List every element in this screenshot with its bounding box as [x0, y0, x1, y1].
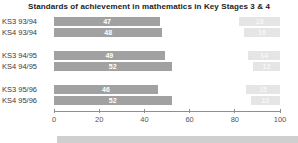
x-axis-tick-mark	[54, 109, 55, 113]
main-bar-value: 52	[54, 96, 172, 105]
category-label: KS3 94/95	[2, 51, 52, 60]
secondary-bar: 13	[251, 96, 280, 105]
main-bar: 49	[54, 51, 165, 60]
category-label: KS4 93/94	[2, 28, 52, 37]
secondary-bar-value: 13	[251, 96, 280, 105]
category-label: KS3 95/96	[2, 85, 52, 94]
main-bar-value: 47	[54, 17, 160, 26]
x-axis-tick-mark	[234, 109, 235, 113]
secondary-bar-value: 18	[239, 17, 280, 26]
x-axis-tick-label: 0	[44, 115, 64, 124]
category-label: KS3 93/94	[2, 17, 52, 26]
category-label: KS4 94/95	[2, 62, 52, 71]
x-axis-tick-label: 80	[225, 115, 245, 124]
main-bar-value: 49	[54, 51, 165, 60]
secondary-bar: 15	[246, 85, 280, 94]
secondary-bar: 14	[248, 51, 280, 60]
x-axis-tick-mark	[189, 109, 190, 113]
x-axis-tick-mark	[144, 109, 145, 113]
main-bar: 47	[54, 17, 160, 26]
x-axis-tick-label: 20	[89, 115, 109, 124]
main-bar: 48	[54, 28, 162, 37]
main-bar: 46	[54, 85, 158, 94]
x-axis-tick-label: 40	[134, 115, 154, 124]
main-bar-value: 52	[54, 62, 172, 71]
chart-area: Standards of achievement in mathematics …	[0, 0, 298, 143]
x-axis-tick-mark	[280, 109, 281, 113]
main-bar-value: 48	[54, 28, 162, 37]
chart-title: Standards of achievement in mathematics …	[0, 2, 298, 11]
category-label: KS4 95/96	[2, 96, 52, 105]
secondary-bar-value: 14	[248, 51, 280, 60]
secondary-bar: 16	[244, 28, 280, 37]
secondary-bar-value: 16	[244, 28, 280, 37]
secondary-bar-value: 15	[246, 85, 280, 94]
secondary-bar: 18	[239, 17, 280, 26]
main-bar: 52	[54, 96, 172, 105]
x-axis-tick-label: 100	[270, 115, 290, 124]
secondary-bar: 12	[253, 62, 280, 71]
secondary-bar-value: 12	[253, 62, 280, 71]
x-axis-line	[54, 111, 281, 112]
main-bar: 52	[54, 62, 172, 71]
footer-shade-band	[57, 136, 298, 143]
main-bar-value: 46	[54, 85, 158, 94]
x-axis-tick-label: 60	[180, 115, 200, 124]
x-axis-tick-mark	[99, 109, 100, 113]
